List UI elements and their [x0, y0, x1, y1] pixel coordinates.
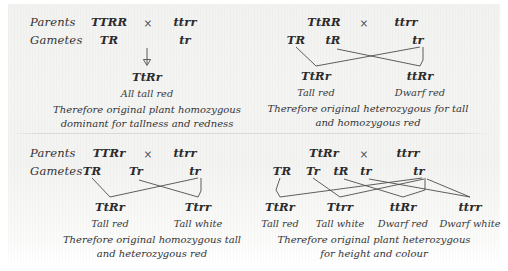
conclusion-line-1: Therefore original homozygous tall — [63, 234, 241, 245]
gamete-left-1: TR — [273, 164, 291, 178]
gamete-left-2: tR — [325, 33, 340, 47]
offspring-genotype-4: ttrr — [458, 200, 481, 214]
gamete-left-1: TR — [83, 164, 101, 178]
conclusion-line-2: dominant for tallness and redness — [61, 118, 234, 129]
genetics-cross-figure: Parents Gametes TTRR × ttrr TR tr TtRr A… — [0, 0, 508, 271]
gamete-left-2: Tr — [306, 164, 320, 178]
offspring-phenotype-1: Tall red — [91, 218, 129, 229]
offspring-genotype-1: TtRr — [265, 200, 295, 214]
row-label-gametes: Gametes — [30, 164, 82, 178]
gamete-left-3: tR — [333, 164, 348, 178]
cross-panel-bottom-left: Parents Gametes TTRr × ttrr TR Tr tr TtR… — [0, 136, 254, 271]
cross-panel-top-left: Parents Gametes TTRR × ttrr TR tr TtRr A… — [0, 0, 254, 135]
cross-panel-top-right: TtRR × ttrr TR tR tr TtRr ttRr Tall red … — [254, 0, 508, 135]
conclusion-line-2: for height and colour — [320, 248, 427, 259]
parent-genotype-left: TtRR — [307, 15, 340, 29]
parent-genotype-right: ttrr — [173, 15, 196, 29]
offspring-phenotype-2: Tall white — [316, 218, 365, 229]
row-label-gametes: Gametes — [30, 33, 82, 47]
gamete-right-1: tr — [179, 33, 191, 47]
parent-genotype-left: TTRR — [91, 15, 127, 29]
gamete-left-4: tr — [360, 164, 372, 178]
conclusion-line-1: Therefore original plant heterozygous — [278, 234, 471, 245]
gamete-right-1: tr — [413, 164, 425, 178]
offspring-phenotype-4: Dwarf white — [439, 218, 500, 229]
conclusion-line-1: Therefore original plant homozygous — [53, 104, 241, 115]
offspring-genotype-2: Ttrr — [327, 200, 353, 214]
cross-symbol: × — [360, 17, 369, 29]
gamete-left-1: TR — [100, 33, 118, 47]
offspring-genotype-3: ttRr — [390, 200, 417, 214]
gamete-right-1: tr — [189, 164, 201, 178]
offspring-genotype-1: TtRr — [95, 200, 125, 214]
parent-genotype-right: ttrr — [173, 146, 196, 160]
row-label-parents: Parents — [30, 146, 76, 160]
conclusion-line-1: Therefore original heterozygous for tall — [268, 103, 469, 114]
cross-symbol: × — [360, 148, 369, 160]
conclusion-line-2: and heterozygous red — [97, 248, 207, 259]
gamete-right-1: tr — [412, 33, 424, 47]
cross-symbol: × — [144, 17, 153, 29]
offspring-phenotype-2: Tall white — [174, 218, 223, 229]
parent-genotype-right: ttrr — [396, 146, 419, 160]
offspring-phenotype-1: Tall red — [261, 218, 299, 229]
gamete-left-1: TR — [287, 33, 305, 47]
offspring-genotype-2: Ttrr — [185, 200, 211, 214]
offspring-genotype-1: TtRr — [301, 69, 331, 83]
parent-genotype-right: ttrr — [394, 15, 417, 29]
row-label-parents: Parents — [30, 15, 76, 29]
conclusion-line-2: and homozygous red — [315, 117, 420, 128]
gamete-fusion-lines — [254, 0, 508, 135]
parent-genotype-left: TTRr — [93, 146, 126, 160]
offspring-genotype-1: TtRr — [132, 70, 162, 84]
offspring-genotype-2: ttRr — [407, 69, 434, 83]
cross-panel-bottom-right: TtRr × ttrr TR Tr tR tr tr Tt — [254, 136, 508, 271]
offspring-phenotype-3: Dwarf red — [378, 218, 428, 229]
gamete-left-2: Tr — [129, 164, 143, 178]
offspring-phenotype-1: Tall red — [297, 87, 335, 98]
offspring-phenotype-2: Dwarf red — [395, 87, 445, 98]
parent-genotype-left: TtRr — [309, 146, 339, 160]
offspring-phenotype-1: All tall red — [121, 88, 173, 99]
cross-symbol: × — [144, 148, 153, 160]
